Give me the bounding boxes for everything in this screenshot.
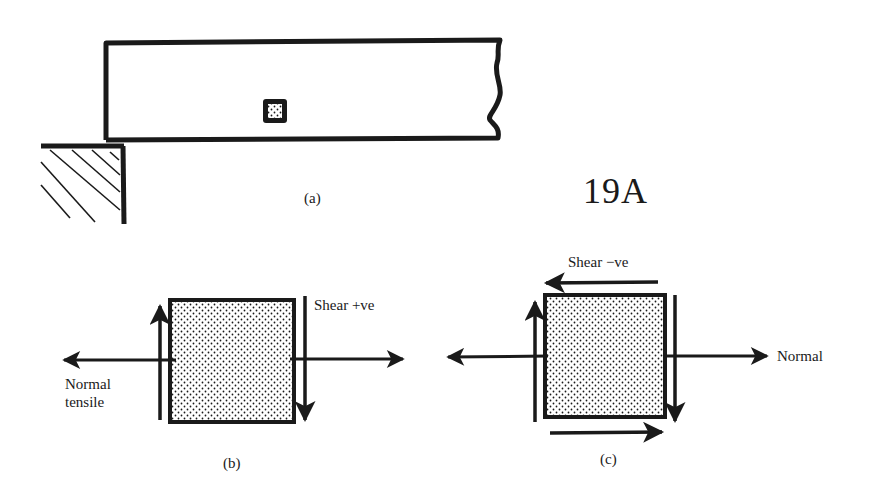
caption-b: (b) (223, 455, 241, 472)
label-shear-negative: Shear −ve (568, 253, 629, 271)
hatching-icon (41, 150, 120, 222)
label-normal: Normal (65, 375, 111, 393)
normal-left-arrow-icon (448, 356, 548, 357)
panel-c-element (448, 282, 767, 433)
shear-bottom-right-arrow-icon (550, 432, 662, 433)
figure-number: 19A (583, 170, 648, 212)
wall-support (41, 146, 124, 224)
panel-a-beam (106, 40, 500, 140)
caption-a: (a) (304, 190, 321, 207)
label-normal: Normal (777, 347, 823, 365)
label-tensile: tensile (65, 393, 104, 411)
shear-top-left-arrow-icon (546, 282, 658, 283)
caption-c: (c) (600, 451, 617, 468)
panel-b-element (64, 296, 403, 422)
label-shear-positive: Shear +ve (314, 296, 375, 314)
diagram-canvas (0, 0, 875, 490)
